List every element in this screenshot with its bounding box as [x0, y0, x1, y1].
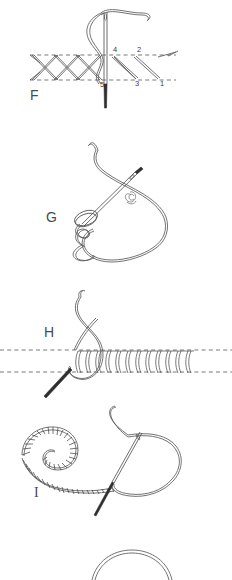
- figure-f: 1 2 3 4 5 F: [30, 10, 178, 108]
- figure-f-needle: [104, 12, 107, 108]
- figure-h: H: [0, 290, 232, 398]
- figure-i-needle: [94, 432, 142, 516]
- figure-label-i: I: [34, 485, 39, 500]
- number-label-3: 3: [135, 79, 139, 88]
- needle-eye: [104, 14, 106, 20]
- number-label-4: 4: [113, 45, 117, 54]
- figure-g-thread-loop: [82, 150, 167, 262]
- figure-g-thread-coil: [125, 192, 136, 204]
- figure-g-needle: [82, 167, 143, 226]
- figure-partial-bottom-arc: [92, 550, 172, 580]
- figure-g-thread-tail: [88, 143, 98, 150]
- diagram-canvas: 1 2 3 4 5 F: [0, 0, 232, 580]
- stitch-diagram-page: 1 2 3 4 5 F: [0, 0, 232, 580]
- figure-h-blanket-stitches: [76, 351, 194, 373]
- figure-i-spiral-stitches: [22, 427, 114, 494]
- number-label-1: 1: [160, 79, 164, 88]
- figure-f-herringbone-stitches: [30, 55, 102, 80]
- figure-h-needle: [44, 368, 72, 398]
- figure-label-f: F: [30, 87, 39, 103]
- figure-f-number-labels: 1 2 3 4 5: [100, 45, 164, 89]
- number-label-2: 2: [137, 45, 141, 54]
- figure-label-g: G: [46, 209, 57, 225]
- figure-i: I: [22, 406, 181, 516]
- figure-i-thread-loop: [110, 406, 182, 496]
- number-label-5: 5: [100, 80, 104, 89]
- figure-g: G: [46, 143, 168, 262]
- figure-label-h: H: [44, 324, 55, 340]
